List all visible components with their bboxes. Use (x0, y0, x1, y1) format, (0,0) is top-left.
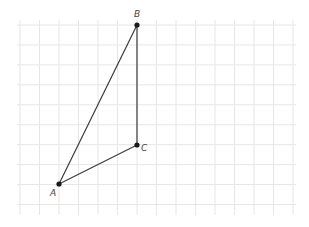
label-c: C (141, 143, 148, 153)
label-b: B (134, 9, 140, 19)
label-a: A (49, 188, 56, 198)
point-a (56, 181, 61, 186)
point-c (134, 142, 139, 147)
point-b (134, 22, 139, 27)
triangle-diagram: ABC (0, 0, 309, 227)
